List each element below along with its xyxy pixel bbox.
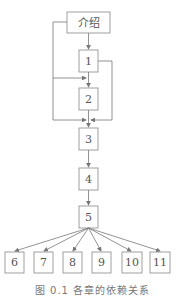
dependency-diagram: 介绍 1 2 3 4 5 6 7 8 9 10 11 xyxy=(0,0,185,304)
label-2: 2 xyxy=(85,93,92,106)
label-9: 9 xyxy=(98,256,105,269)
label-8: 8 xyxy=(69,256,76,269)
label-4: 4 xyxy=(85,173,92,186)
label-6: 6 xyxy=(11,256,18,269)
label-5: 5 xyxy=(85,211,92,224)
figure-caption: 图 0.1 各章的依赖关系 xyxy=(0,282,185,297)
label-10: 10 xyxy=(125,256,139,269)
label-7: 7 xyxy=(40,256,47,269)
label-1: 1 xyxy=(85,55,92,68)
label-11: 11 xyxy=(153,256,167,269)
label-intro: 介绍 xyxy=(78,16,100,30)
label-3: 3 xyxy=(85,133,92,146)
